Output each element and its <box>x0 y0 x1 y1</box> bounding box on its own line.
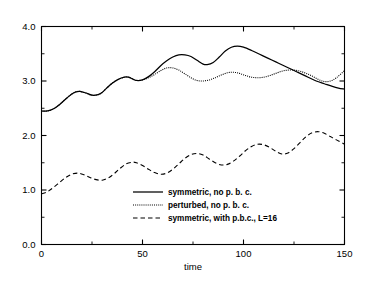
legend-label-0: symmetric, no p. b. c. <box>168 188 252 197</box>
legend-label-2: symmetric, with p.b.c., L=16 <box>168 214 277 223</box>
x-tick-label: 100 <box>236 248 252 259</box>
y-tick-label: 1.0 <box>22 184 35 195</box>
y-tick-label: 4.0 <box>22 21 35 32</box>
y-tick-label: 0.0 <box>22 239 35 250</box>
chart-figure: 0.01.02.03.04.0 050100150 time symmetric… <box>0 0 366 286</box>
x-tick-label: 50 <box>137 248 148 259</box>
x-tick-label: 150 <box>337 248 353 259</box>
figure-background <box>0 0 366 286</box>
y-tick-label: 3.0 <box>22 75 35 86</box>
x-tick-label: 0 <box>39 248 44 259</box>
legend-label-1: perturbed, no p. b. c. <box>168 201 249 210</box>
x-axis-title: time <box>184 261 202 272</box>
y-tick-label: 2.0 <box>22 130 35 141</box>
